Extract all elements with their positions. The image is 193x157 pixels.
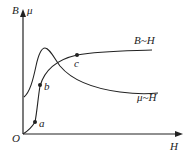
point-c-label: c xyxy=(74,57,79,69)
y-axis-label-mu: μ xyxy=(26,4,33,16)
x-axis-label-h: H xyxy=(169,140,179,152)
magnetization-diagram: B μ O H B~H μ~H a b c xyxy=(0,0,193,157)
point-b-marker xyxy=(38,83,42,87)
b-h-curve-label: B~H xyxy=(134,34,156,46)
mu-h-curve-label: μ~H xyxy=(136,91,157,103)
point-b-label: b xyxy=(44,80,50,92)
origin-label: O xyxy=(12,132,20,144)
x-axis-arrow-icon xyxy=(175,131,183,137)
y-axis-label-b: B xyxy=(12,4,19,16)
point-a-marker xyxy=(33,120,37,124)
point-a-label: a xyxy=(39,117,45,129)
y-axis-arrow-icon xyxy=(20,9,26,17)
